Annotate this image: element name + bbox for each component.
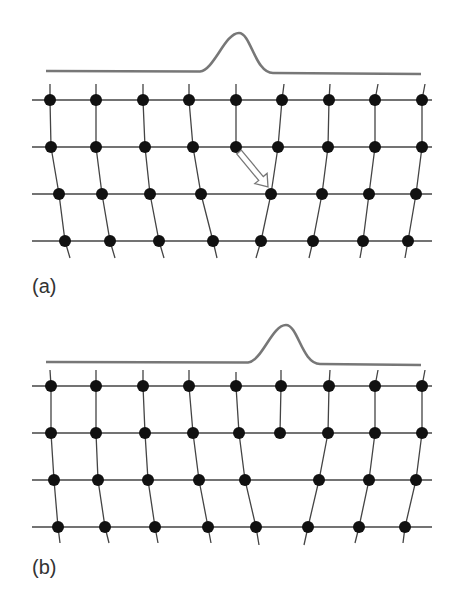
atom: [369, 94, 381, 106]
atom: [96, 188, 108, 200]
lattice-column-line: [403, 370, 425, 543]
atom: [45, 427, 57, 439]
atom: [45, 380, 57, 392]
atom: [195, 188, 207, 200]
atom: [410, 188, 422, 200]
lattice-column-line: [304, 370, 330, 545]
atom: [137, 380, 149, 392]
atom: [90, 94, 102, 106]
lattice-column-line: [405, 84, 425, 258]
atom: [416, 427, 428, 439]
atom: [230, 380, 242, 392]
atom: [233, 427, 245, 439]
atom: [272, 141, 284, 153]
atom: [255, 235, 267, 247]
atom: [45, 141, 57, 153]
panel-label-a: (a): [32, 275, 56, 298]
atom: [274, 427, 286, 439]
atom: [402, 235, 414, 247]
lattice-column-line: [96, 370, 109, 543]
atom: [357, 235, 369, 247]
atom: [183, 380, 195, 392]
lattice-column-line: [360, 84, 378, 258]
atom: [202, 521, 214, 533]
atom: [92, 474, 104, 486]
atom: [363, 188, 375, 200]
atom: [410, 474, 422, 486]
lattice-column-line: [189, 84, 217, 258]
atom: [313, 474, 325, 486]
atom: [52, 521, 64, 533]
atom: [369, 141, 381, 153]
atom: [363, 474, 375, 486]
atom: [323, 380, 335, 392]
atom: [239, 474, 251, 486]
lattice-column-line: [280, 370, 281, 433]
atom: [416, 380, 428, 392]
atom: [139, 141, 151, 153]
atom: [193, 474, 205, 486]
atom: [265, 188, 277, 200]
atom: [90, 427, 102, 439]
atom: [250, 521, 262, 533]
atom: [322, 141, 334, 153]
atom: [44, 94, 56, 106]
atom: [187, 141, 199, 153]
lattice-column-line: [309, 84, 330, 258]
atom: [316, 188, 328, 200]
atom: [53, 188, 65, 200]
lattice-column-line: [50, 84, 70, 258]
atom: [207, 235, 219, 247]
slip-arrow-icon: [237, 150, 268, 187]
atom: [48, 474, 60, 486]
atom: [230, 94, 242, 106]
atom: [369, 427, 381, 439]
atom: [104, 235, 116, 247]
lattice-column-line: [256, 84, 284, 258]
atom: [90, 141, 102, 153]
strain-curve: [46, 325, 421, 365]
atom: [323, 94, 335, 106]
atom: [276, 94, 288, 106]
atom: [416, 94, 428, 106]
atom: [59, 235, 71, 247]
lattice-column-line: [50, 370, 60, 543]
atom: [144, 188, 156, 200]
atom: [149, 521, 161, 533]
atom: [153, 235, 165, 247]
atom: [187, 427, 199, 439]
atom: [183, 94, 195, 106]
atom: [353, 521, 365, 533]
atom: [416, 141, 428, 153]
atom: [139, 427, 151, 439]
atom: [142, 474, 154, 486]
panel-label-b: (b): [32, 556, 56, 579]
atom: [369, 380, 381, 392]
atom: [90, 380, 102, 392]
lattice-column-line: [189, 370, 211, 543]
dislocation-diagram: [0, 0, 460, 610]
atom: [99, 521, 111, 533]
atom: [302, 521, 314, 533]
atom: [137, 94, 149, 106]
lattice-column-line: [143, 370, 158, 543]
atom: [307, 235, 319, 247]
atom: [275, 380, 287, 392]
atom: [399, 521, 411, 533]
lattice-column-line: [143, 84, 164, 258]
lattice-column-line: [96, 84, 115, 258]
lattice-column-line: [236, 372, 259, 545]
strain-curve: [46, 33, 421, 74]
lattice-column-line: [355, 370, 378, 543]
atom: [322, 427, 334, 439]
